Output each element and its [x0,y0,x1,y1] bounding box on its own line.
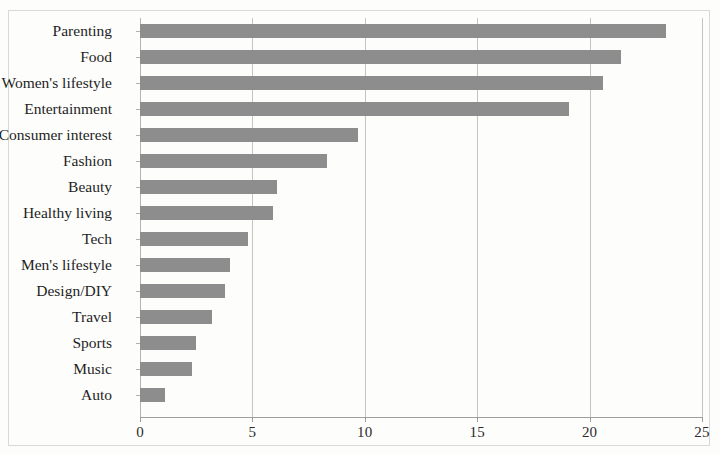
category-label: Men's lifestyle [0,256,112,274]
bar-row: Tech [140,226,702,252]
bar-row: Entertainment [140,96,702,122]
x-tick-label: 15 [457,424,497,441]
bar-row: Healthy living [140,200,702,226]
category-label: Healthy living [0,204,112,222]
category-label: Beauty [0,178,112,196]
x-tick-mark-20 [590,417,591,422]
bar-row: Fashion [140,148,702,174]
bar [140,102,569,116]
bar [140,128,358,142]
category-label: Women's lifestyle [0,74,112,92]
category-label: Consumer interest [0,126,112,144]
x-tick-label: 10 [345,424,385,441]
x-tick-mark-10 [365,417,366,422]
bar [140,336,196,350]
bar [140,180,277,194]
x-tick-mark-15 [477,417,478,422]
x-tick-label: 5 [232,424,272,441]
x-axis-line [140,417,703,418]
x-tick-mark-5 [252,417,253,422]
bar [140,154,327,168]
category-label: Fashion [0,152,112,170]
bar [140,362,192,376]
bar [140,24,666,38]
x-tick-mark-0 [140,417,141,422]
category-label: Entertainment [0,100,112,118]
bar-row: Women's lifestyle [140,70,702,96]
bar [140,388,165,402]
bar [140,232,248,246]
x-tick-label: 25 [682,424,720,441]
bar-row: Men's lifestyle [140,252,702,278]
bar-row: Parenting [140,18,702,44]
gridline-25 [702,18,703,417]
category-label: Parenting [0,22,112,40]
bar-row: Consumer interest [140,122,702,148]
bar [140,258,230,272]
bar-row: Food [140,44,702,70]
bar-row: Beauty [140,174,702,200]
bar-row: Travel [140,304,702,330]
bar-row: Music [140,356,702,382]
category-label: Tech [0,230,112,248]
category-label: Design/DIY [0,282,112,300]
x-tick-mark-25 [702,417,703,422]
category-label: Travel [0,308,112,326]
bar [140,206,273,220]
bar [140,310,212,324]
x-tick-label: 0 [120,424,160,441]
bar [140,76,603,90]
bar [140,50,621,64]
category-label: Food [0,48,112,66]
bar-row: Sports [140,330,702,356]
x-tick-label: 20 [570,424,610,441]
category-label: Sports [0,334,112,352]
category-label: Music [0,360,112,378]
bar-chart-figure: ParentingFoodWomen's lifestyleEntertainm… [0,0,720,455]
plot-area: ParentingFoodWomen's lifestyleEntertainm… [140,18,702,417]
category-label: Auto [0,386,112,404]
bar [140,284,225,298]
bar-row: Design/DIY [140,278,702,304]
bar-row: Auto [140,382,702,408]
